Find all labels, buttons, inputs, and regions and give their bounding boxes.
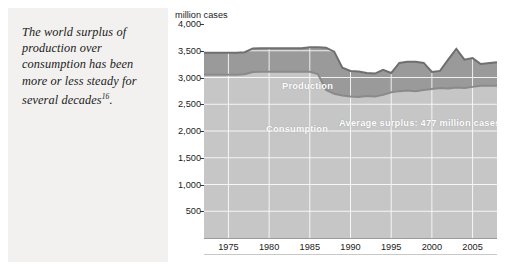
y-tick-label-2500: 2,500: [161, 99, 201, 109]
y-tick-label-500: 500: [161, 206, 201, 216]
annotation-average-surplus: Average surplus: 477 million cases.: [339, 118, 497, 128]
figure-container: The world surplus of production over con…: [0, 0, 505, 277]
x-tick-label-1980: 1980: [259, 242, 279, 252]
x-tick-label-2005: 2005: [462, 242, 482, 252]
x-tick-label-2000: 2000: [422, 242, 442, 252]
x-tick-label-1995: 1995: [381, 242, 401, 252]
chart-svg: [204, 24, 497, 238]
x-axis-line: [204, 238, 497, 239]
y-tick-label-3500: 3,500: [161, 46, 201, 56]
plot-area: Production Consumption Average surplus: …: [204, 24, 497, 238]
caption-period: .: [109, 93, 112, 107]
y-tick-label-2000: 2,000: [161, 126, 201, 136]
caption-body: The world surplus of production over con…: [22, 25, 137, 107]
caption-text: The world surplus of production over con…: [22, 24, 156, 108]
y-tick-label-1000: 1,000: [161, 180, 201, 190]
y-tick-label-4000: 4,000: [161, 19, 201, 29]
x-tick-label-1990: 1990: [340, 242, 360, 252]
x-tick-label-1985: 1985: [300, 242, 320, 252]
plot-wrapper: 4,000 3,500 3,000 2,500 2,000 1,500 1,00…: [171, 8, 497, 262]
series-label-production: Production: [282, 81, 333, 91]
chart-panel: million cases 4,000 3,500 3,000 2,500 2,…: [171, 8, 497, 262]
y-tick-label-3000: 3,000: [161, 73, 201, 83]
x-axis-baseline: [204, 254, 497, 255]
x-tick-label-1975: 1975: [218, 242, 238, 252]
caption-panel: The world surplus of production over con…: [8, 8, 168, 262]
series-label-consumption: Consumption: [266, 124, 328, 134]
y-tick-label-1500: 1,500: [161, 153, 201, 163]
